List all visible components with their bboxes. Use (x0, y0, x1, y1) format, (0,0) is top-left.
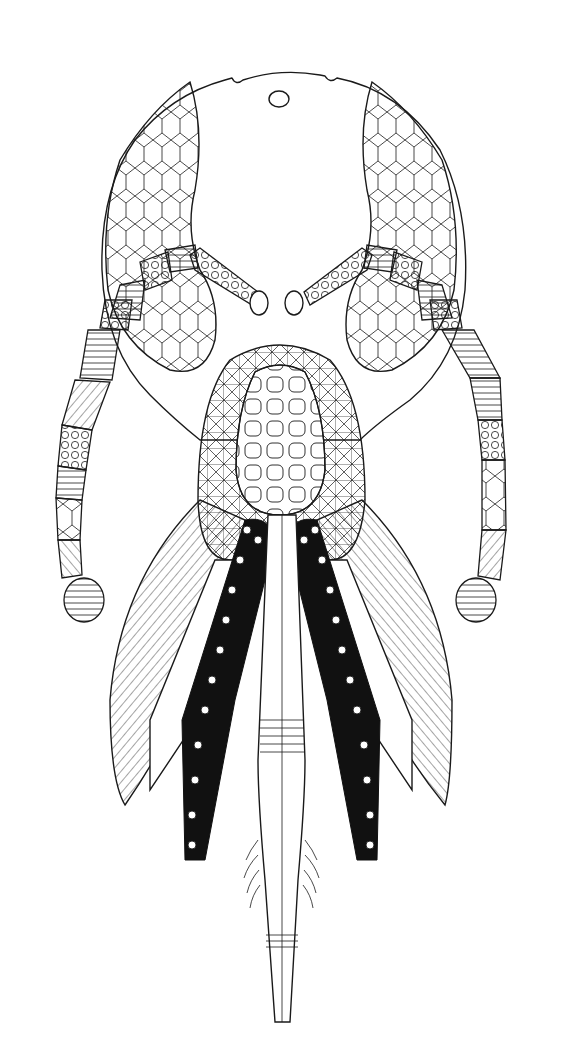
illustration (0, 0, 562, 1055)
ocellus (269, 91, 289, 107)
